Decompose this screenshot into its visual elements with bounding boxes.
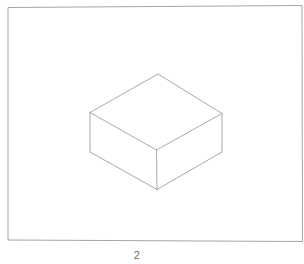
- figure-caption: 2: [134, 249, 140, 261]
- figure-canvas: 2: [0, 0, 304, 264]
- box-edge-vertical-front: [157, 150, 158, 190]
- figure-drawing: 2: [0, 0, 304, 264]
